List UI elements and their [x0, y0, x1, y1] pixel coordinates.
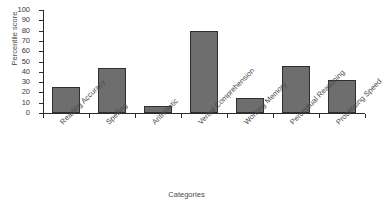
y-tick-label: 60 — [8, 47, 30, 55]
x-axis-title: Categories — [0, 190, 373, 199]
y-tick-label: 40 — [8, 68, 30, 76]
x-tick — [181, 114, 182, 118]
y-tick-label: 90 — [8, 16, 30, 24]
y-tick-label: 20 — [8, 88, 30, 96]
x-tick — [319, 114, 320, 118]
x-tick — [89, 114, 90, 118]
x-tick — [135, 114, 136, 118]
y-tick-label: 50 — [8, 58, 30, 66]
x-tick — [365, 114, 366, 118]
x-tick — [43, 114, 44, 118]
y-tick-label: 10 — [8, 99, 30, 107]
y-tick-label: 80 — [8, 27, 30, 35]
x-tick — [273, 114, 274, 118]
x-tick — [227, 114, 228, 118]
y-tick-label: 0 — [8, 109, 30, 117]
y-tick-label: 100 — [8, 6, 30, 14]
y-tick-label: 70 — [8, 37, 30, 45]
y-tick-label: 30 — [8, 78, 30, 86]
